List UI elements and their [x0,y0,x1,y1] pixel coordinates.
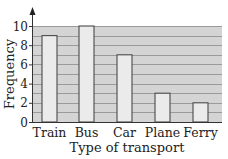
y-tick-label: 8 [20,39,28,53]
y-tick-label: 10 [13,20,28,34]
y-tick-label: 4 [20,77,28,91]
bar-ferry [193,103,208,122]
bar-bus [79,26,94,122]
x-tick-label: Car [113,125,136,140]
x-axis-label: Type of transport [70,140,186,155]
y-tick-label: 6 [20,58,28,72]
bar-plane [155,93,170,122]
x-tick-label: Bus [75,125,99,140]
x-tick-label: Ferry [183,125,218,140]
bar-train [42,36,57,122]
x-category-labels: TrainBusCarPlaneFerry [33,125,219,140]
y-tick-label: 2 [20,96,28,110]
bar-car [117,55,132,122]
y-axis-arrow-icon [30,7,36,15]
y-axis-label: Frequency [2,38,17,109]
y-tick-label: 0 [20,116,28,130]
x-tick-label: Train [33,125,67,140]
bar-chart: 0246810 TrainBusCarPlaneFerry Type of tr… [0,0,228,159]
x-tick-label: Plane [145,125,180,140]
